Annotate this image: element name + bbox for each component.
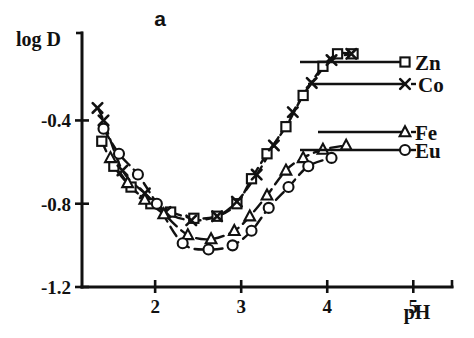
x-tick-label-3: 3 (236, 296, 246, 317)
marker-Zn-11 (299, 91, 308, 100)
marker-Eu-5 (203, 245, 213, 255)
legend-label-Zn: Zn (415, 51, 441, 75)
marker-Zn-10 (281, 122, 290, 131)
marker-Eu-3 (152, 199, 162, 209)
marker-Eu-4 (178, 238, 188, 248)
axes (75, 33, 452, 293)
marker-Zn-0 (97, 137, 106, 146)
curve-Co (97, 54, 351, 221)
y-axis-title: log D (16, 28, 61, 51)
data-curves (97, 53, 353, 250)
marker-Fe-6 (229, 225, 240, 235)
x-axis-title: pH (404, 301, 431, 324)
marker-Eu-11 (327, 153, 337, 163)
y-tick-label--0.4: -0.4 (41, 110, 72, 131)
marker-Eu-7 (247, 226, 257, 236)
marker-Eu-0 (99, 124, 109, 134)
figure-panel-a: ZnCoFeEu 2345-0.4-0.8-1.2log DpHa (0, 0, 474, 338)
legend-label-Co: Co (418, 73, 444, 97)
marker-Fe-11 (318, 144, 329, 154)
marker-Fe-12 (341, 140, 352, 150)
x-tick-label-2: 2 (150, 296, 160, 317)
marker-Fe-5 (206, 233, 217, 243)
legend-label-Eu: Eu (415, 139, 441, 163)
legend-entry-Eu[interactable]: Eu (300, 139, 441, 163)
legend-marker-Fe (400, 126, 411, 136)
marker-Eu-8 (264, 203, 274, 213)
marker-Eu-6 (228, 240, 238, 250)
legend-entry-Co[interactable]: Co (308, 73, 444, 97)
panel-label: a (154, 7, 166, 30)
x-tick-label-4: 4 (322, 296, 332, 317)
chart-labels: 2345-0.4-0.8-1.2log DpHa (16, 7, 431, 324)
legend-marker-Eu (400, 145, 410, 155)
marker-Eu-1 (114, 149, 124, 159)
curve-Eu (104, 129, 332, 250)
marker-Eu-9 (284, 182, 294, 192)
legend-marker-Zn (400, 57, 409, 66)
y-tick-label--0.8: -0.8 (41, 194, 71, 215)
y-tick-label--1.2: -1.2 (41, 277, 71, 298)
data-markers (93, 49, 358, 255)
marker-Eu-10 (303, 161, 313, 171)
chart-canvas: ZnCoFeEu 2345-0.4-0.8-1.2log DpHa (0, 0, 474, 338)
marker-Co-0 (93, 103, 103, 113)
marker-Eu-2 (133, 170, 143, 180)
